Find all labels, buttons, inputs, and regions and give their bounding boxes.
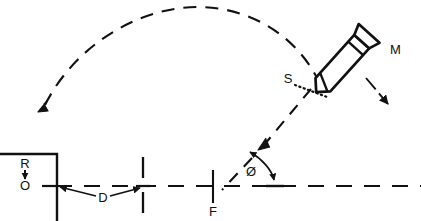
sensor-label: S: [284, 71, 293, 86]
origin-label: O: [20, 178, 30, 193]
projectile-trajectory-diagram: R O D F Ø: [0, 0, 421, 221]
projectile-body: [306, 24, 380, 101]
distance-end-marker: [136, 157, 150, 213]
distance-arrow-right: [110, 188, 140, 196]
distance-dimension: D: [60, 187, 140, 205]
fuze-label: F: [209, 204, 217, 219]
angle-label: Ø: [246, 164, 256, 179]
trajectory-arc: [38, 7, 320, 112]
distance-label: D: [98, 190, 107, 205]
range-label: R: [20, 156, 29, 171]
descent-direction-arrow: [366, 78, 388, 104]
fuze-marker: F: [209, 170, 217, 219]
target-box: R O: [0, 154, 57, 221]
munition-label: M: [390, 42, 401, 57]
line-of-fire: [222, 89, 311, 190]
distance-arrow-left: [60, 187, 96, 196]
angle-arc: Ø: [246, 152, 284, 186]
diagram-canvas: R O D F Ø: [0, 0, 421, 221]
